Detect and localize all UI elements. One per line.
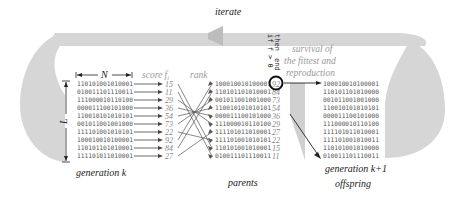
offspring-string: 111101011010001 xyxy=(323,128,379,135)
genetic-algorithm-diagram: iterate N L score fi rank 11010100101000… xyxy=(0,0,455,199)
survival-line-3: reproduction xyxy=(286,68,335,78)
parent-string: 111101001010101 xyxy=(215,136,271,143)
condition-end: end xyxy=(273,58,281,71)
survival-line-2: the fittest and xyxy=(284,56,336,66)
offspring-label: offspring xyxy=(335,178,371,189)
offspring-string: 111000010110100 xyxy=(323,120,379,127)
parent-string: 001011001001000 xyxy=(215,96,271,103)
offspring-string: 100010010100001 xyxy=(323,80,379,87)
parent-string: 110101001010001 xyxy=(215,144,271,151)
condition-if: if f > θ xyxy=(266,34,274,68)
offspring-string: 000011100101000 xyxy=(323,112,379,119)
offspring-string: 001011001001000 xyxy=(323,96,379,103)
reproduction-arrow-head xyxy=(314,152,321,159)
condition-then: then xyxy=(273,34,281,51)
parent-string: 110010101010101 xyxy=(215,104,271,111)
termination-condition: if f > θ then end xyxy=(266,34,281,71)
gen-k-string: 110010101010101 xyxy=(77,112,133,119)
gen-k-string: 110101001010001 xyxy=(77,80,133,87)
parents-list: 100010010100001 110101101010001 00101100… xyxy=(215,80,271,159)
parent-score: 11 xyxy=(272,152,279,161)
gen-k-string: 111101011010001 xyxy=(77,152,133,159)
offspring-string: 110101101010000 xyxy=(323,88,379,95)
gen-k-string: 110101101010001 xyxy=(77,144,133,151)
offspring-list: 100010010100001 110101101010000 00101100… xyxy=(323,80,379,159)
parents-score-list: 92 84 73 54 36 29 27 22 15 11 xyxy=(271,80,281,161)
parent-string: 111101011010001 xyxy=(215,128,271,135)
offspring-string: 111101001010011 xyxy=(323,136,379,143)
n-length-marker: N xyxy=(76,69,132,80)
gen-k-string: 010011101110011 xyxy=(77,88,133,95)
n-label: N xyxy=(100,69,109,80)
parent-string: 010011101110011 xyxy=(215,152,271,159)
offspring-string: 110010101010101 xyxy=(323,104,379,111)
parents-label: parents xyxy=(227,177,258,188)
gen-k-string: 001011001001000 xyxy=(77,120,133,127)
rank-header: rank xyxy=(190,70,208,80)
score-arrows xyxy=(134,82,163,158)
l-label: L xyxy=(58,118,69,125)
generation-k1-label: generation k+1 xyxy=(325,163,387,174)
rank-mapping-lines xyxy=(178,81,213,159)
score-list: 15 11 29 36 54 73 22 92 84 27 xyxy=(164,80,174,161)
offspring-string: 110101001010000 xyxy=(323,144,379,151)
generation-k-list: 110101001010001 010011101110011 11100001… xyxy=(77,80,133,159)
gen-k-string: 111000010110100 xyxy=(77,96,133,103)
gen-k-string: 100010010100001 xyxy=(77,136,133,143)
parent-string: 000011100101000 xyxy=(215,112,271,119)
survival-line-1: survival of xyxy=(292,44,334,54)
parent-string: 111000010110100 xyxy=(215,120,271,127)
survival-arrow-head xyxy=(316,81,322,85)
gen-k-string: 000011100101000 xyxy=(77,104,133,111)
parent-string: 100010010100001 xyxy=(215,80,271,87)
generation-k-label: generation k xyxy=(76,167,127,178)
gen-k-string: 111101001010101 xyxy=(77,128,133,135)
left-half-disc xyxy=(20,33,65,162)
iterate-label: iterate xyxy=(215,6,242,17)
offspring-string: 010011101110011 xyxy=(323,152,379,159)
selection-wedge xyxy=(290,83,305,160)
parent-string: 110101101010001 xyxy=(215,88,271,95)
iterate-top-band xyxy=(52,33,426,46)
score-value: 27 xyxy=(165,152,174,161)
